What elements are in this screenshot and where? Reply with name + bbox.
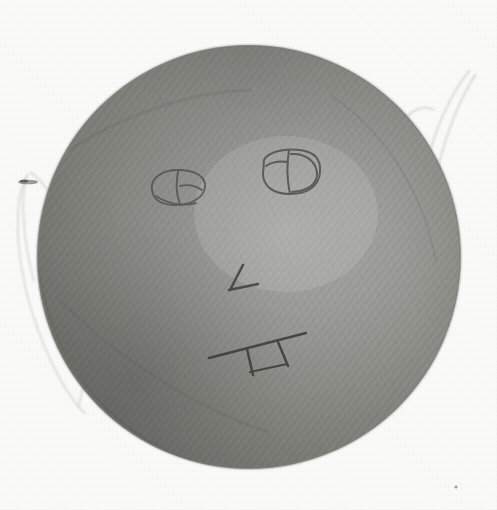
- sphere-artwork: [0, 0, 497, 510]
- speck-bottom-right-icon: [454, 485, 457, 488]
- scanned-drawing-page: Scale of: [0, 0, 497, 510]
